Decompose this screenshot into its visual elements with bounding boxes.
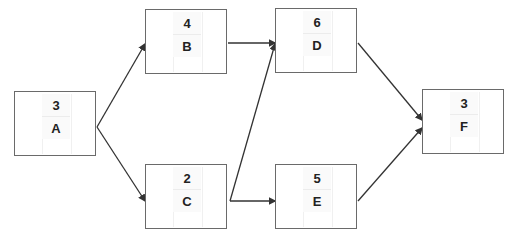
- node-duration: 6: [303, 11, 331, 34]
- edge-d-f: [358, 43, 422, 120]
- edge-c-d: [230, 44, 275, 201]
- node-label: D: [303, 34, 331, 56]
- node-f: 3 F: [422, 89, 504, 154]
- node-c: 2 C: [145, 164, 227, 229]
- node-duration: 3: [42, 94, 70, 117]
- node-duration: 4: [173, 12, 201, 35]
- node-b: 4 B: [145, 9, 227, 74]
- network-diagram: 3 A 4 B 2 C 6 D 5 E 3 F: [0, 0, 517, 241]
- node-e: 5 E: [275, 164, 357, 229]
- node-label: E: [303, 190, 331, 212]
- node-duration: 2: [173, 167, 201, 190]
- edge-e-f: [358, 128, 422, 201]
- node-label: B: [173, 35, 201, 57]
- node-a: 3 A: [14, 91, 96, 156]
- node-d: 6 D: [275, 8, 357, 73]
- node-duration: 5: [303, 167, 331, 190]
- edge-a-c: [97, 127, 145, 201]
- node-duration: 3: [450, 92, 478, 115]
- node-label: A: [42, 117, 70, 139]
- node-label: F: [450, 115, 478, 137]
- node-label: C: [173, 190, 201, 212]
- edge-a-b: [97, 44, 145, 127]
